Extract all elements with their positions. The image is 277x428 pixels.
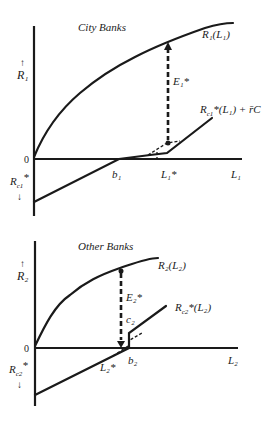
panel-title: Other Banks bbox=[78, 240, 133, 252]
gap-label: E₂* bbox=[125, 291, 143, 303]
y-axis-label: R₂ bbox=[16, 269, 29, 283]
diagram-canvas: City Banks ↑ R₁ 0 Rc1* ↓ R₁(L₁) Rc1*(L₁)… bbox=[0, 0, 277, 428]
optimal-l-label: L₁* bbox=[160, 168, 177, 180]
y-axis-up-arrow: ↑ bbox=[20, 258, 25, 269]
y-axis-up-arrow: ↑ bbox=[20, 57, 25, 68]
revenue-curve bbox=[34, 23, 233, 157]
y-axis-label: R₁ bbox=[16, 68, 29, 82]
b-label: b₁ bbox=[112, 168, 122, 180]
arrow-dot-icon bbox=[166, 141, 171, 146]
panel-city-banks: City Banks ↑ R₁ 0 Rc1* ↓ R₁(L₁) Rc1*(L₁)… bbox=[9, 21, 261, 216]
panel-title: City Banks bbox=[78, 21, 126, 33]
cost-line-label: Rc1*(L₁) + r̄C bbox=[199, 103, 261, 118]
c-label: c₂ bbox=[126, 313, 135, 325]
cost-line bbox=[35, 306, 166, 395]
neg-axis-label: Rc1* bbox=[9, 171, 29, 190]
origin-label: 0 bbox=[24, 154, 29, 165]
revenue-curve-label: R₁(L₁) bbox=[201, 28, 230, 41]
x-axis-label: L₂ bbox=[227, 354, 238, 366]
arrow-dot-icon bbox=[119, 269, 124, 274]
neg-axis-down-arrow: ↓ bbox=[17, 191, 22, 202]
gap-label: E₁* bbox=[172, 75, 190, 87]
revenue-curve-label: R₂(L₂) bbox=[157, 259, 186, 272]
b-label: b₂ bbox=[128, 354, 138, 366]
neg-axis-label: Rc2* bbox=[8, 359, 28, 378]
cost-line-label: Rc2*(L₂) bbox=[174, 301, 211, 316]
x-axis-label: L₁ bbox=[230, 168, 241, 180]
dashed-cost-offset bbox=[113, 333, 142, 356]
optimal-l-label: L₂* bbox=[99, 361, 116, 373]
neg-axis-down-arrow: ↓ bbox=[17, 379, 22, 390]
panel-other-banks: Other Banks ↑ R₂ 0 Rc2* ↓ R₂(L₂) Rc2*(L₂… bbox=[8, 240, 238, 406]
origin-label: 0 bbox=[24, 343, 29, 354]
